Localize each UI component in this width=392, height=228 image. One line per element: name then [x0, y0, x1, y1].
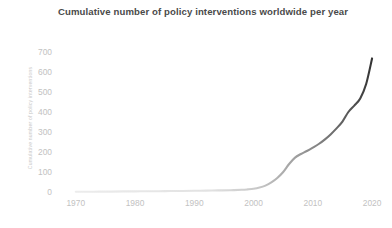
y-axis-tick-label: 300: [22, 127, 52, 137]
x-axis-tick-label: 2000: [231, 198, 277, 208]
chart-title: Cumulative number of policy intervention…: [58, 5, 358, 19]
x-axis-tick-label: 2010: [290, 198, 336, 208]
x-axis-tick-label: 1970: [53, 198, 99, 208]
y-axis-tick-label: 0: [22, 187, 52, 197]
x-axis-tick-label: 1980: [112, 198, 158, 208]
y-axis-tick-label: 100: [22, 167, 52, 177]
y-axis-tick-label: 200: [22, 147, 52, 157]
plot-area: Cumulative number of policy intervention…: [58, 44, 378, 192]
x-axis-tick-label: 2020: [349, 198, 392, 208]
chart-figure: Cumulative number of policy intervention…: [0, 0, 392, 228]
y-axis-tick-label: 500: [22, 87, 52, 97]
series-line-svg: [58, 44, 378, 192]
y-axis-tick-label: 700: [22, 47, 52, 57]
y-axis-tick-label: 400: [22, 107, 52, 117]
y-axis-tick-label: 600: [22, 67, 52, 77]
series-line-path: [76, 58, 372, 191]
x-axis-tick-label: 1990: [171, 198, 217, 208]
